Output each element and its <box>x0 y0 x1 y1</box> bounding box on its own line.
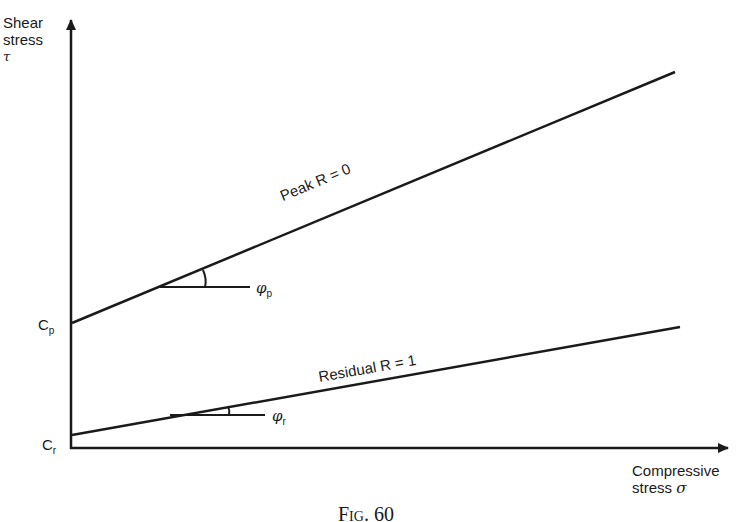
phi-r-symbol: φ <box>272 407 283 425</box>
residual-envelope-line <box>72 327 680 435</box>
cr-label: Cr <box>42 436 56 455</box>
y-axis-label-line1: Shear <box>3 14 43 31</box>
cr-letter: C <box>42 436 53 453</box>
cp-label: Cp <box>38 316 54 335</box>
residual-angle-arc <box>228 406 229 415</box>
phi-r-label: φr <box>272 407 286 426</box>
y-axis-label-line2: stress <box>3 31 43 48</box>
failure-envelope-diagram <box>0 0 748 522</box>
phi-p-sub: p <box>267 288 273 299</box>
tau-symbol: τ <box>3 48 43 65</box>
cr-sub: r <box>53 445 56 456</box>
phi-p-label: φp <box>256 279 272 298</box>
sigma-symbol: σ <box>676 479 686 497</box>
x-axis-label-line1: Compressive <box>632 462 720 479</box>
y-axis-label: Shear stress τ <box>3 14 43 65</box>
x-axis-label-line2: stress <box>632 479 672 496</box>
cp-letter: C <box>38 316 49 333</box>
x-axis-label: Compressive stress σ <box>632 462 720 497</box>
cp-sub: p <box>49 325 55 336</box>
peak-envelope-line <box>72 72 675 323</box>
phi-r-sub: r <box>283 416 286 427</box>
figure-caption: Fig. 60 <box>338 503 394 522</box>
peak-angle-arc <box>203 270 206 287</box>
phi-p-symbol: φ <box>256 279 267 297</box>
